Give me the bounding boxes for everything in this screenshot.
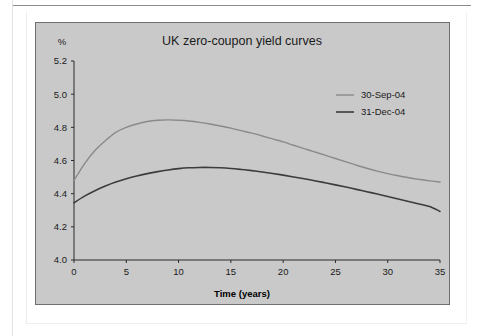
page-inner-rule-bottom bbox=[26, 323, 466, 324]
y-tick-label: 4.0 bbox=[54, 254, 67, 265]
chart-legend: 30-Sep-0431-Dec-04 bbox=[336, 89, 405, 117]
chart-title: UK zero-coupon yield curves bbox=[162, 34, 322, 48]
y-tick-label: 4.8 bbox=[54, 122, 67, 133]
x-tick-label: 25 bbox=[330, 266, 341, 277]
page-margin-rule-left bbox=[12, 0, 13, 336]
y-tick-label: 4.4 bbox=[54, 188, 67, 199]
chart-panel: UK zero-coupon yield curves % 4.04.24.44… bbox=[35, 22, 450, 305]
x-tick-label: 20 bbox=[278, 266, 289, 277]
y-tick-label: 4.2 bbox=[54, 221, 67, 232]
x-tick-label: 0 bbox=[71, 266, 76, 277]
y-tick-label: 5.2 bbox=[54, 55, 67, 66]
x-tick-label: 35 bbox=[435, 266, 446, 277]
x-axis-ticks: 05101520253035 bbox=[71, 260, 445, 277]
series-line bbox=[74, 120, 440, 182]
page-canvas: UK zero-coupon yield curves % 4.04.24.44… bbox=[0, 0, 484, 336]
y-axis-unit-label: % bbox=[58, 36, 67, 47]
y-tick-label: 5.0 bbox=[54, 89, 67, 100]
legend-label: 31-Dec-04 bbox=[361, 106, 405, 117]
yield-curve-chart: UK zero-coupon yield curves % 4.04.24.44… bbox=[36, 23, 449, 304]
series-line bbox=[74, 167, 440, 211]
page-inner-rule-left bbox=[26, 12, 27, 324]
page-inner-rule-right bbox=[466, 12, 467, 324]
x-tick-label: 5 bbox=[124, 266, 129, 277]
series-lines bbox=[74, 120, 440, 212]
x-axis-title: Time (years) bbox=[214, 288, 270, 299]
x-tick-label: 10 bbox=[173, 266, 184, 277]
y-tick-label: 4.6 bbox=[54, 155, 67, 166]
y-axis-ticks: 4.04.24.44.64.85.05.2 bbox=[54, 55, 74, 265]
legend-label: 30-Sep-04 bbox=[361, 89, 405, 100]
x-tick-label: 15 bbox=[226, 266, 237, 277]
x-tick-label: 30 bbox=[382, 266, 393, 277]
page-header-rule bbox=[13, 5, 471, 6]
